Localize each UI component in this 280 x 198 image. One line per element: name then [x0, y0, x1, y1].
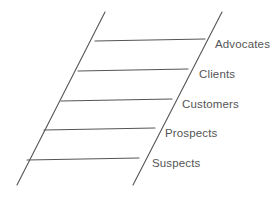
rung-label-prospects: Prospects: [165, 128, 217, 140]
ladder-rung-advocates: [95, 39, 205, 41]
ladder-rung-prospects: [44, 128, 155, 130]
ladder-rungs: [27, 39, 205, 160]
rung-label-clients: Clients: [199, 69, 235, 81]
loyalty-ladder-diagram: AdvocatesClientsCustomersProspectsSuspec…: [0, 0, 280, 198]
rung-label-advocates: Advocates: [215, 39, 270, 51]
rung-label-suspects: Suspects: [152, 158, 201, 170]
ladder-rung-clients: [78, 69, 188, 71]
rung-label-customers: Customers: [182, 99, 239, 111]
ladder-rung-customers: [61, 99, 172, 101]
ladder-rung-suspects: [27, 158, 139, 160]
